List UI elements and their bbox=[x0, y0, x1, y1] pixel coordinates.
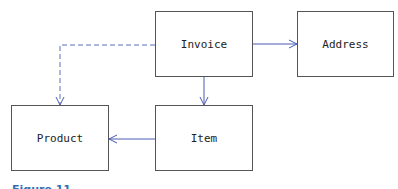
node-invoice-label: Invoice bbox=[181, 38, 227, 51]
node-invoice: Invoice bbox=[155, 11, 253, 77]
node-address-label: Address bbox=[322, 38, 368, 51]
edge-invoice-product-dashed bbox=[60, 45, 155, 105]
node-item-label: Item bbox=[191, 132, 218, 145]
figure-caption: Figure 11 bbox=[12, 183, 71, 189]
node-product-label: Product bbox=[37, 132, 83, 145]
node-item: Item bbox=[155, 105, 253, 171]
node-product: Product bbox=[11, 105, 109, 171]
node-address: Address bbox=[297, 11, 394, 77]
